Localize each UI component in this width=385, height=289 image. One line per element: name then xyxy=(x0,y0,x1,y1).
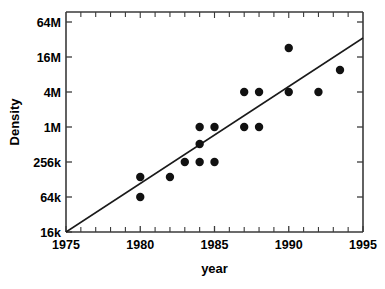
data-point xyxy=(195,140,203,148)
y-tick-label-256k: 256k xyxy=(33,156,61,170)
data-point-series xyxy=(136,44,344,201)
data-point xyxy=(240,88,248,96)
y-axis-tick-labels: 64M 16M 4M 1M 256k 64k 16k xyxy=(33,16,61,240)
chart-figure: 64M 16M 4M 1M 256k 64k 16k xyxy=(0,0,385,289)
data-point xyxy=(136,173,144,181)
data-point xyxy=(210,158,218,166)
plot-top-ticks xyxy=(81,12,348,18)
y-tick-label-16M: 16M xyxy=(37,51,61,65)
data-point xyxy=(314,88,322,96)
x-tick-label-1995: 1995 xyxy=(349,238,377,252)
data-point xyxy=(285,88,293,96)
x-axis-tick-labels: 1975 1980 1985 1990 1995 xyxy=(52,238,377,252)
plot-frame xyxy=(66,12,363,232)
x-tick-label-1985: 1985 xyxy=(201,238,229,252)
x-axis-title: year xyxy=(201,261,228,276)
y-tick-label-4M: 4M xyxy=(44,86,61,100)
data-point xyxy=(210,123,218,131)
data-point xyxy=(195,123,203,131)
scatter-plot: 64M 16M 4M 1M 256k 64k 16k xyxy=(0,0,385,289)
data-point xyxy=(136,193,144,201)
data-point xyxy=(195,158,203,166)
data-point xyxy=(255,123,263,131)
y-axis-ticks xyxy=(66,22,72,232)
data-point xyxy=(336,66,344,74)
trend-line xyxy=(66,38,363,232)
y-tick-label-64k: 64k xyxy=(40,191,61,205)
x-tick-label-1980: 1980 xyxy=(126,238,154,252)
data-point xyxy=(285,44,293,52)
x-tick-label-1975: 1975 xyxy=(52,238,80,252)
data-point xyxy=(166,173,174,181)
data-point xyxy=(255,88,263,96)
data-point xyxy=(181,158,189,166)
plot-right-ticks xyxy=(357,22,363,197)
y-tick-label-64M: 64M xyxy=(37,16,61,30)
data-point xyxy=(240,123,248,131)
y-axis-title: Density xyxy=(7,98,22,146)
y-tick-label-1M: 1M xyxy=(44,121,61,135)
x-tick-label-1990: 1990 xyxy=(275,238,303,252)
